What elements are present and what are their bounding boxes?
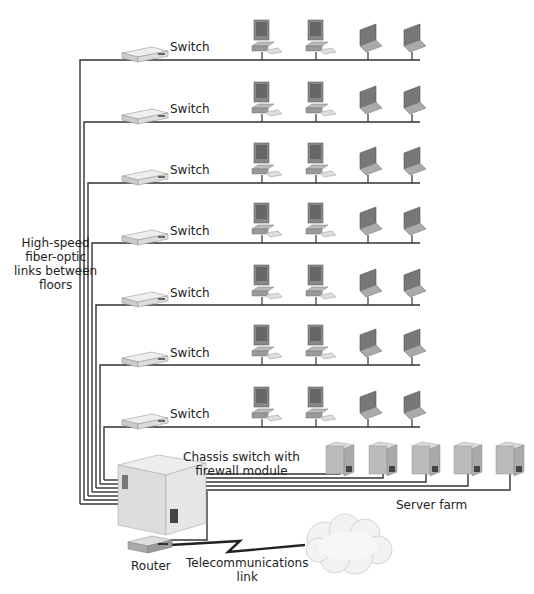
cloud-icon — [306, 514, 392, 574]
desktop-case — [306, 229, 322, 234]
chassis-label-line: Chassis switch with — [183, 450, 300, 464]
laptop-icon — [360, 207, 382, 243]
desktop-case — [306, 108, 322, 113]
keyboard — [266, 48, 282, 54]
server-drive — [346, 466, 352, 472]
keyboard — [266, 231, 282, 237]
desktop-base — [306, 347, 328, 351]
server-drive — [432, 466, 438, 472]
monitor-screen — [256, 145, 267, 159]
switch-label: Switch — [170, 163, 210, 177]
laptop-icon — [404, 207, 426, 243]
switch-label: Switch — [170, 224, 210, 238]
desktop-base — [252, 165, 274, 169]
server-icon — [326, 442, 354, 476]
switch-label: Switch — [170, 102, 210, 116]
monitor-screen — [310, 22, 321, 36]
telecom-label-line: Telecommunications — [186, 556, 308, 570]
desktop-case — [306, 169, 322, 174]
monitor-screen — [310, 205, 321, 219]
keyboard — [320, 171, 336, 177]
switch-label: Switch — [170, 346, 210, 360]
monitor-screen — [310, 145, 321, 159]
laptop-icon — [404, 24, 426, 60]
backbone-label-line: links between — [14, 264, 97, 278]
switch-ports — [158, 298, 165, 300]
server-farm-label: Server farm — [396, 498, 467, 512]
telecom-label-line: link — [186, 570, 308, 584]
desktop-computer-icon — [252, 143, 282, 183]
switch-label: Switch — [170, 40, 210, 54]
switch-label: Switch — [170, 407, 210, 421]
server-drive — [516, 466, 522, 472]
desktop-base — [306, 287, 328, 291]
desktop-base — [306, 409, 328, 413]
switch-ports — [158, 236, 165, 238]
telecom-link-label: Telecommunications link — [186, 556, 308, 584]
desktop-computer-icon — [306, 387, 336, 427]
server-side — [412, 446, 430, 474]
monitor-screen — [256, 267, 267, 281]
desktop-case — [252, 291, 268, 296]
keyboard — [266, 353, 282, 359]
laptop-icon — [360, 86, 382, 122]
laptop-icon — [404, 269, 426, 305]
laptop-icon — [404, 147, 426, 183]
monitor-screen — [310, 84, 321, 98]
desktop-case — [306, 413, 322, 418]
desktop-computer-icon — [306, 265, 336, 305]
monitor-screen — [310, 389, 321, 403]
desktop-base — [252, 347, 274, 351]
keyboard — [266, 171, 282, 177]
monitor-screen — [256, 327, 267, 341]
keyboard — [320, 353, 336, 359]
laptop-icon — [404, 86, 426, 122]
monitor-screen — [256, 22, 267, 36]
desktop-case — [252, 229, 268, 234]
desktop-base — [306, 104, 328, 108]
keyboard — [266, 110, 282, 116]
desktop-computer-icon — [306, 82, 336, 122]
telecom-link — [170, 541, 305, 552]
server-side — [454, 446, 472, 474]
backbone-label-line: fiber-optic — [14, 250, 97, 264]
monitor-screen — [310, 327, 321, 341]
desktop-computer-icon — [306, 203, 336, 243]
server-side — [496, 446, 514, 474]
desktop-base — [252, 42, 274, 46]
desktop-computer-icon — [306, 325, 336, 365]
desktop-base — [252, 287, 274, 291]
switch-ports — [158, 115, 165, 117]
monitor-screen — [310, 267, 321, 281]
backbone-label-line: High-speed — [14, 236, 97, 250]
desktop-computer-icon — [252, 325, 282, 365]
server-side — [369, 446, 387, 474]
laptop-icon — [360, 269, 382, 305]
keyboard — [320, 415, 336, 421]
keyboard — [320, 293, 336, 299]
switch-ports — [158, 358, 165, 360]
desktop-base — [306, 165, 328, 169]
keyboard — [266, 415, 282, 421]
chassis-switch-label: Chassis switch with firewall module — [183, 450, 300, 478]
desktop-computer-icon — [306, 143, 336, 183]
desktop-base — [306, 225, 328, 229]
server-icon — [454, 442, 482, 476]
switch-ports — [158, 176, 165, 178]
desktop-computer-icon — [306, 20, 336, 60]
desktop-case — [252, 46, 268, 51]
keyboard — [320, 231, 336, 237]
router-ports — [158, 543, 168, 545]
desktop-computer-icon — [252, 82, 282, 122]
keyboard — [320, 110, 336, 116]
desktop-base — [252, 104, 274, 108]
desktop-case — [252, 413, 268, 418]
router-label: Router — [131, 559, 171, 573]
desktop-computer-icon — [252, 265, 282, 305]
chassis-vent — [122, 475, 128, 489]
laptop-icon — [360, 24, 382, 60]
desktop-case — [252, 351, 268, 356]
cloud-body — [318, 532, 378, 560]
keyboard — [266, 293, 282, 299]
desktop-computer-icon — [252, 203, 282, 243]
